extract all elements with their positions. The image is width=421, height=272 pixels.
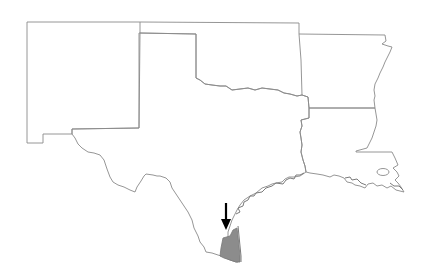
lake-pontchartrain [377, 169, 389, 176]
texas-coastline-detail [236, 173, 304, 214]
arrow-icon [221, 203, 231, 230]
state-new-mexico [27, 22, 140, 143]
state-texas [72, 33, 309, 262]
highlighted-region [220, 228, 240, 262]
state-arkansas [299, 34, 392, 108]
regional-map [0, 0, 421, 272]
